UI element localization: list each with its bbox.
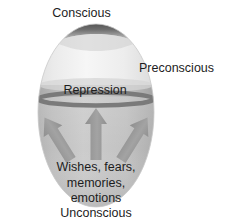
- label-repression: Repression: [36, 84, 154, 98]
- label-unconscious: Unconscious: [26, 207, 166, 221]
- label-unconscious-contents: Wishes, fears, memories, emotions: [26, 160, 166, 207]
- label-preconscious: Preconscious: [139, 62, 214, 76]
- label-conscious: Conscious: [0, 7, 163, 21]
- freud-psyche-diagram: Conscious Preconscious Repression Wishes…: [0, 0, 226, 224]
- label-unconscious-contents-line2: memories,: [26, 176, 166, 192]
- label-unconscious-contents-line1: Wishes, fears,: [26, 160, 166, 176]
- label-unconscious-contents-line3: emotions: [26, 191, 166, 207]
